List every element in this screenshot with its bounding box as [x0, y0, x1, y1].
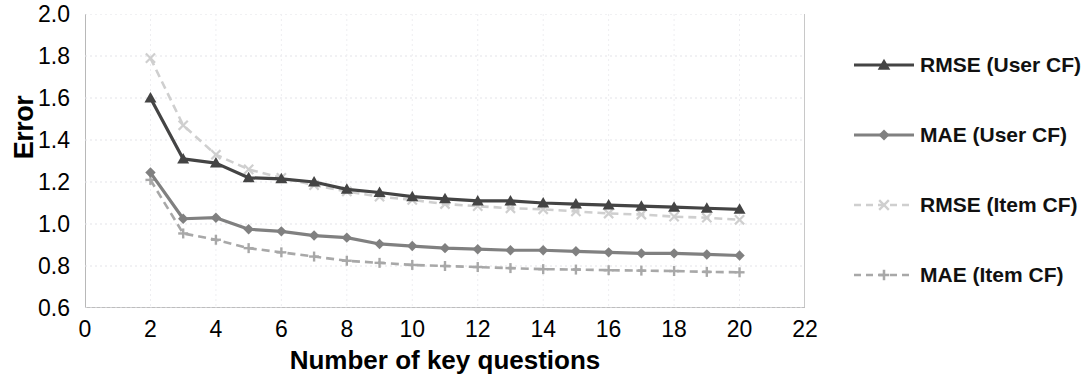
x-tick-label: 4 — [194, 318, 238, 341]
y-tick-label: 0.6 — [14, 297, 70, 320]
x-tick-label: 2 — [128, 318, 172, 341]
data-point-diamond — [342, 232, 352, 242]
x-tick-label: 18 — [652, 318, 696, 341]
x-tick-label: 0 — [63, 318, 107, 341]
y-tick-label: 1.8 — [14, 45, 70, 68]
data-point-diamond — [407, 241, 417, 251]
data-point-plus — [440, 261, 450, 271]
legend-item-3[interactable]: MAE (Item CF) — [852, 258, 1064, 292]
data-point-diamond — [505, 245, 515, 255]
data-point-plus — [636, 266, 646, 276]
data-point-plus — [505, 263, 515, 273]
series-0 — [144, 92, 745, 214]
data-point-x — [179, 121, 188, 130]
plot-area — [85, 14, 805, 308]
legend-label: RMSE (Item CF) — [920, 193, 1078, 217]
data-point-triangle — [144, 92, 156, 103]
data-point-diamond — [636, 248, 646, 258]
legend-item-0[interactable]: RMSE (User CF) — [852, 48, 1081, 82]
x-tick-label: 14 — [521, 318, 565, 341]
x-tick-label: 20 — [718, 318, 762, 341]
data-point-diamond — [702, 249, 712, 259]
series-line — [150, 98, 739, 209]
legend-swatch — [852, 120, 916, 150]
x-tick-label: 6 — [259, 318, 303, 341]
data-point-plus — [309, 252, 319, 262]
y-tick-label: 1.4 — [14, 129, 70, 152]
data-point-plus — [879, 270, 890, 281]
x-axis-title: Number of key questions — [85, 345, 805, 376]
legend-swatch — [852, 190, 916, 220]
legend-swatch — [852, 50, 916, 80]
data-point-diamond — [669, 248, 679, 258]
data-point-plus — [407, 260, 417, 270]
data-point-plus — [571, 265, 581, 275]
data-point-diamond — [879, 130, 890, 141]
x-tick-label: 10 — [390, 318, 434, 341]
data-point-diamond — [473, 244, 483, 254]
y-tick-label: 1.0 — [14, 213, 70, 236]
data-point-plus — [669, 266, 679, 276]
data-point-diamond — [440, 243, 450, 253]
y-tick-label: 2.0 — [14, 3, 70, 26]
data-point-diamond — [571, 246, 581, 256]
y-axis-title: Error — [9, 68, 40, 188]
data-point-diamond — [538, 245, 548, 255]
data-point-plus — [735, 267, 745, 277]
data-point-diamond — [603, 247, 613, 257]
legend-swatch — [852, 260, 916, 290]
legend-label: MAE (Item CF) — [920, 263, 1064, 287]
chart-legend: RMSE (User CF)MAE (User CF)RMSE (Item CF… — [852, 48, 1085, 296]
data-point-diamond — [309, 230, 319, 240]
x-tick-label: 12 — [456, 318, 500, 341]
x-tick-label: 16 — [587, 318, 631, 341]
data-point-plus — [244, 243, 254, 253]
legend-label: MAE (User CF) — [920, 123, 1067, 147]
legend-item-2[interactable]: RMSE (Item CF) — [852, 188, 1078, 222]
y-tick-label: 1.2 — [14, 171, 70, 194]
data-point-plus — [473, 262, 483, 272]
data-point-diamond — [243, 224, 253, 234]
data-point-diamond — [276, 226, 286, 236]
legend-label: RMSE (User CF) — [920, 53, 1081, 77]
data-point-diamond — [734, 250, 744, 260]
data-point-plus — [211, 235, 221, 245]
y-tick-label: 1.6 — [14, 87, 70, 110]
series-1 — [145, 167, 744, 260]
series-canvas — [85, 14, 805, 308]
y-tick-label: 0.8 — [14, 255, 70, 278]
data-point-plus — [702, 267, 712, 277]
chart-figure: Error 2.01.81.61.41.21.00.80.6 024681012… — [0, 0, 1085, 385]
data-point-diamond — [374, 239, 384, 249]
data-point-diamond — [211, 213, 221, 223]
x-tick-label: 8 — [325, 318, 369, 341]
data-point-plus — [604, 265, 614, 275]
data-point-x — [735, 215, 744, 224]
x-tick-label: 22 — [783, 318, 827, 341]
legend-item-1[interactable]: MAE (User CF) — [852, 118, 1067, 152]
data-point-plus — [276, 247, 286, 257]
data-point-plus — [342, 256, 352, 266]
